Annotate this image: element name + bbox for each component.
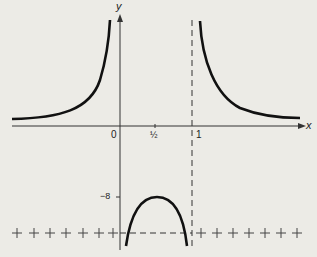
right-branch-curve (200, 21, 300, 118)
one-label: 1 (196, 129, 202, 140)
x-axis-arrow-icon (298, 123, 306, 129)
plus-signs-left (12, 228, 118, 238)
minus-eight-label: −8 (100, 191, 110, 201)
y-axis-label: y (116, 0, 122, 12)
graph-canvas (0, 0, 317, 257)
plus-signs-right (196, 228, 302, 238)
left-branch-curve (12, 20, 110, 119)
y-axis-arrow-icon (117, 14, 123, 22)
half-label: ½ (150, 130, 158, 140)
origin-label: 0 (111, 129, 117, 140)
middle-arch-curve (126, 197, 187, 246)
x-axis-label: x (306, 119, 312, 131)
